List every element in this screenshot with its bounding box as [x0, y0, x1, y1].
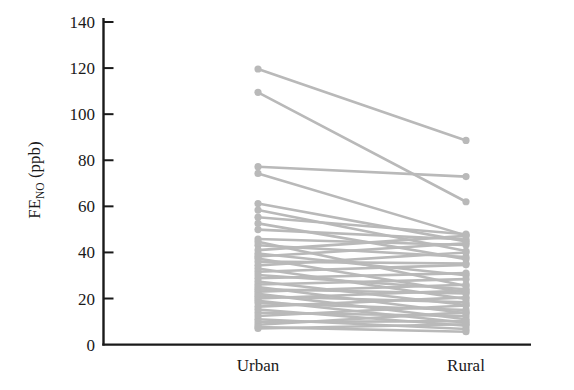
y-axis-tick-label: 100: [70, 105, 96, 124]
y-axis-tick-label: 80: [78, 151, 95, 170]
data-point-rural: [462, 173, 469, 180]
data-point-urban: [254, 206, 261, 213]
data-point-rural: [462, 249, 469, 256]
y-axis-title: FENO (ppb): [25, 141, 46, 219]
y-axis-title-text: FENO (ppb): [25, 141, 46, 219]
data-point-rural: [462, 294, 469, 301]
data-point-urban: [254, 163, 261, 170]
data-point-urban: [254, 226, 261, 233]
slope-chart-svg: 020406080100120140 UrbanRural FENO (ppb): [0, 0, 574, 390]
data-point-rural: [462, 287, 469, 294]
data-point-rural: [462, 240, 469, 247]
data-point-urban: [254, 220, 261, 227]
y-axis-tick-label: 20: [78, 290, 95, 309]
data-point-urban: [254, 200, 261, 207]
y-axis-tick-label: 60: [78, 197, 95, 216]
y-axis-title-base: FE: [25, 199, 44, 219]
data-point-rural: [462, 137, 469, 144]
data-point-urban: [254, 325, 261, 332]
y-axis-title-unit: (ppb): [25, 141, 44, 182]
y-axis-tick-label: 40: [78, 243, 95, 262]
data-point-rural: [462, 321, 469, 328]
chart-figure: 020406080100120140 UrbanRural FENO (ppb): [0, 0, 574, 390]
x-axis-tick-label-urban: Urban: [237, 356, 280, 375]
data-point-urban: [254, 65, 261, 72]
y-axis-tick-label: 140: [70, 13, 96, 32]
data-point-rural: [462, 328, 469, 335]
y-axis-tick-label: 0: [87, 336, 96, 355]
y-axis-tick-label: 120: [70, 59, 96, 78]
data-point-rural: [462, 309, 469, 316]
data-point-rural: [462, 198, 469, 205]
data-point-urban: [254, 170, 261, 177]
data-point-rural: [462, 302, 469, 309]
x-axis-tick-label-rural: Rural: [447, 356, 485, 375]
data-point-urban: [254, 214, 261, 221]
data-point-urban: [254, 89, 261, 96]
data-point-rural: [462, 232, 469, 239]
data-point-rural: [462, 261, 469, 268]
y-axis-title-subscript: NO: [34, 182, 46, 199]
